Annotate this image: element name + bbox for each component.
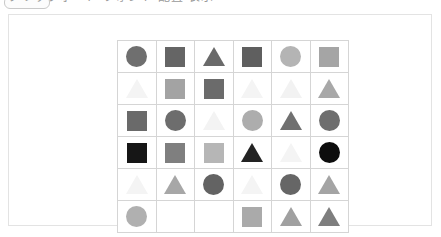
square-icon [204, 79, 224, 99]
shape-grid-row [118, 105, 349, 137]
shape-grid-row [118, 73, 349, 105]
shape-cell-r4-c4[interactable] [233, 137, 272, 169]
shape-cell-r1-c1[interactable] [118, 41, 157, 73]
shape-cell-r3-c6[interactable] [310, 105, 349, 137]
triangle-icon [318, 207, 340, 226]
circle-icon [203, 174, 224, 195]
shape-cell-inner [311, 170, 348, 200]
circle-icon [280, 46, 301, 67]
shape-cell-r5-c2[interactable] [156, 169, 195, 201]
shape-cell-r1-c5[interactable] [272, 41, 311, 73]
triangle-icon [280, 143, 302, 162]
triangle-icon [318, 175, 340, 194]
square-icon [165, 47, 185, 67]
shape-cell-r1-c6[interactable] [310, 41, 349, 73]
shape-cell-inner [118, 170, 155, 200]
triangle-icon [318, 79, 340, 98]
shape-cell-inner [234, 170, 271, 200]
shape-grid-container [117, 40, 342, 226]
shape-cell-r2-c4[interactable] [233, 73, 272, 105]
shape-cell-r1-c3[interactable] [195, 41, 234, 73]
triangle-icon [241, 143, 263, 162]
shape-cell-r3-c1[interactable] [118, 105, 157, 137]
circle-icon [319, 110, 340, 131]
circle-icon [126, 206, 147, 227]
shape-cell-r5-c1[interactable] [118, 169, 157, 201]
triangle-icon [280, 207, 302, 226]
shape-cell-inner [272, 42, 309, 72]
shape-cell-inner [311, 42, 348, 72]
shape-cell-inner [195, 42, 232, 72]
shape-cell-inner [118, 138, 155, 168]
shape-grid-row [118, 201, 349, 233]
triangle-icon [164, 175, 186, 194]
shape-cell-r2-c6[interactable] [310, 73, 349, 105]
square-icon [165, 143, 185, 163]
shape-cell-r5-c5[interactable] [272, 169, 311, 201]
shape-cell-inner [195, 170, 232, 200]
window-ribbon-strip: クリップボード フォント 配置 表示 [0, 0, 441, 13]
triangle-icon [126, 79, 148, 98]
shape-cell-inner [118, 202, 155, 232]
shape-cell-inner [157, 42, 194, 72]
content-card [8, 14, 432, 226]
shape-cell-r2-c5[interactable] [272, 73, 311, 105]
square-icon [127, 143, 147, 163]
shape-cell-r4-c3[interactable] [195, 137, 234, 169]
shape-cell-r3-c5[interactable] [272, 105, 311, 137]
shape-cell-r1-c2[interactable] [156, 41, 195, 73]
shape-cell-r3-c4[interactable] [233, 105, 272, 137]
shape-cell-r6-c3[interactable] [195, 201, 234, 233]
shape-cell-r2-c3[interactable] [195, 73, 234, 105]
shape-cell-inner [311, 74, 348, 104]
shape-cell-inner [195, 74, 232, 104]
shape-cell-inner [311, 202, 348, 232]
shape-cell-inner [195, 202, 232, 232]
shape-cell-inner [272, 202, 309, 232]
triangle-icon [126, 175, 148, 194]
shape-cell-r6-c1[interactable] [118, 201, 157, 233]
shape-grid-row [118, 41, 349, 73]
circle-icon [280, 174, 301, 195]
shape-cell-r5-c3[interactable] [195, 169, 234, 201]
shape-cell-inner [272, 106, 309, 136]
shape-cell-r1-c4[interactable] [233, 41, 272, 73]
shape-cell-r6-c5[interactable] [272, 201, 311, 233]
shape-cell-r5-c6[interactable] [310, 169, 349, 201]
square-icon [165, 79, 185, 99]
circle-icon [242, 110, 263, 131]
circle-icon [126, 46, 147, 67]
triangle-icon [280, 79, 302, 98]
square-icon [319, 47, 339, 67]
shape-cell-r4-c2[interactable] [156, 137, 195, 169]
shape-cell-inner [118, 74, 155, 104]
shape-cell-r6-c2[interactable] [156, 201, 195, 233]
shape-cell-inner [234, 138, 271, 168]
shape-cell-r2-c2[interactable] [156, 73, 195, 105]
shape-cell-r6-c4[interactable] [233, 201, 272, 233]
shape-cell-r6-c6[interactable] [310, 201, 349, 233]
shape-cell-r3-c2[interactable] [156, 105, 195, 137]
triangle-icon [241, 175, 263, 194]
shape-cell-r5-c4[interactable] [233, 169, 272, 201]
shape-cell-inner [157, 170, 194, 200]
shape-cell-r4-c6[interactable] [310, 137, 349, 169]
shape-cell-inner [157, 138, 194, 168]
shape-cell-r4-c5[interactable] [272, 137, 311, 169]
square-icon [242, 207, 262, 227]
shape-cell-inner [195, 106, 232, 136]
shape-cell-inner [118, 42, 155, 72]
square-icon [127, 111, 147, 131]
shape-cell-r2-c1[interactable] [118, 73, 157, 105]
shape-cell-r4-c1[interactable] [118, 137, 157, 169]
triangle-icon [241, 79, 263, 98]
shape-cell-r3-c3[interactable] [195, 105, 234, 137]
shape-cell-inner [195, 138, 232, 168]
square-icon [204, 143, 224, 163]
shape-cell-inner [272, 170, 309, 200]
circle-icon [319, 142, 340, 163]
shape-cell-inner [234, 202, 271, 232]
shape-cell-inner [157, 74, 194, 104]
shape-cell-inner [234, 106, 271, 136]
shape-cell-inner [311, 106, 348, 136]
